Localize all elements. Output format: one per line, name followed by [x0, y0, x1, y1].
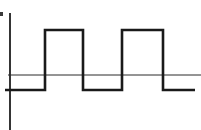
corner-speck-mark	[0, 12, 3, 16]
plot-background	[0, 0, 201, 130]
square-wave-figure	[0, 0, 201, 130]
waveform-plot-canvas	[0, 0, 201, 130]
